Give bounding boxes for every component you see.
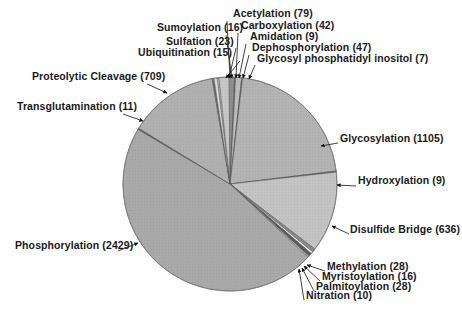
callout-arrow: [236, 33, 238, 78]
slice-label: Acetylation (79): [233, 7, 313, 19]
slice-label: Hydroxylation (9): [358, 174, 445, 186]
callout-arrow: [249, 65, 255, 79]
slice-label: Sumoylation (16): [157, 21, 243, 33]
callout-arrow: [147, 84, 167, 93]
callout-arrow: [337, 185, 356, 186]
callout-arrow: [239, 44, 246, 78]
slice-label: Proteolytic Cleavage (709): [32, 70, 165, 82]
slice-label: Nitration (10): [306, 289, 372, 301]
callout-arrow: [302, 268, 314, 291]
callout-arrow: [123, 114, 143, 121]
slice-label: Phosphorylation (2429): [15, 239, 133, 251]
callout-arrow: [332, 226, 349, 234]
slice-label: Glycosylation (1105): [340, 132, 444, 144]
callout-arrow: [299, 269, 304, 300]
callout-arrow: [243, 55, 249, 78]
callout-arrow: [226, 61, 240, 78]
pie-outline: [123, 77, 337, 291]
slice-label: Disulfide Bridge (636): [350, 223, 460, 235]
slice-label: Glycosyl phosphatidyl inositol (7): [257, 52, 428, 64]
slice-label: Ubiquitination (15): [138, 46, 232, 58]
slice-label: Transglutamination (11): [17, 100, 137, 112]
